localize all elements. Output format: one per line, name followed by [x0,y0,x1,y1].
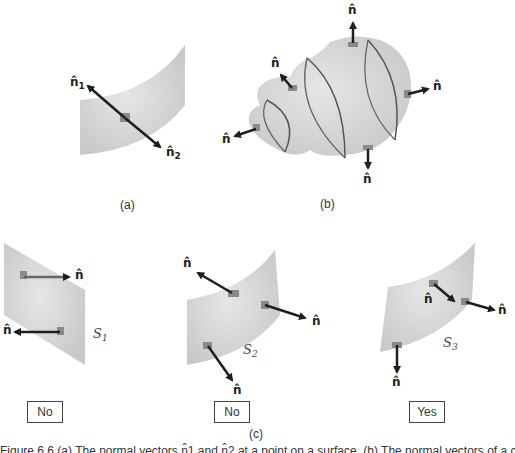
s1-normal-label-1: n̂ [75,268,84,282]
normal-label-n2: n̂2 [166,145,181,161]
panel-a-label: (a) [120,198,135,212]
s2-normal-label-3: n̂ [233,383,242,397]
surface-label-s3: S3 [443,335,458,352]
s3-normal-label-2: n̂ [498,303,507,317]
normal-label-right: n̂ [433,79,442,93]
s2-normal-label-2: n̂ [312,314,321,328]
panel-c-label: (c) [249,427,263,441]
panel-b-closed-surface [235,23,428,168]
surface-s3 [380,243,494,372]
s1-normal-label-2: n̂ [3,323,12,337]
panel-a-surface [80,45,185,155]
figure-caption: Figure 6.6 (a) The normal vectors n̂1 an… [0,443,515,453]
s2-answer-box: No [214,401,250,423]
s3-normal-label-3: n̂ [392,375,401,389]
panel-b-label: (b) [320,197,335,211]
normal-label-top: n̂ [348,3,357,17]
normal-label-n1: n̂1 [70,75,85,91]
normal-label-left: n̂ [222,132,231,146]
surface-s2 [187,250,305,380]
s2-normal-label-1: n̂ [183,256,192,270]
s3-normal-label-1: n̂ [424,292,433,306]
surface-s1 [4,243,85,365]
normal-label-bottom: n̂ [363,172,372,186]
s3-answer-box: Yes [409,401,445,423]
surface-label-s2: S2 [243,342,258,359]
normal-label-upper-left: n̂ [271,56,280,70]
surface-label-s1: S1 [93,326,108,343]
s1-answer-box: No [27,401,63,423]
figure-canvas [0,0,515,453]
